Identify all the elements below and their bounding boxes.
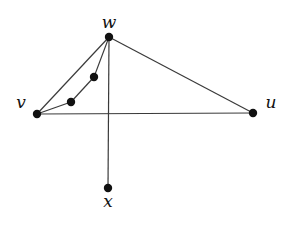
node-label-w: w [102, 12, 117, 32]
node-w [105, 33, 113, 41]
node-u [249, 109, 257, 117]
labels-layer: wvux [16, 12, 276, 211]
edge-w-p1 [94, 37, 109, 77]
edge-v-u [37, 113, 253, 114]
edge-w-u [109, 37, 253, 113]
edge-p1-p2 [71, 77, 94, 102]
edge-w-x [108, 37, 109, 188]
node-label-u: u [266, 92, 277, 112]
graph-canvas: wvux [0, 0, 291, 227]
node-p2 [67, 98, 75, 106]
nodes-layer [33, 33, 257, 192]
node-v [33, 110, 41, 118]
node-p1 [90, 73, 98, 81]
node-label-v: v [16, 92, 26, 112]
graph-diagram: wvux [0, 0, 291, 227]
edges-layer [37, 37, 253, 188]
node-label-x: x [103, 191, 113, 211]
